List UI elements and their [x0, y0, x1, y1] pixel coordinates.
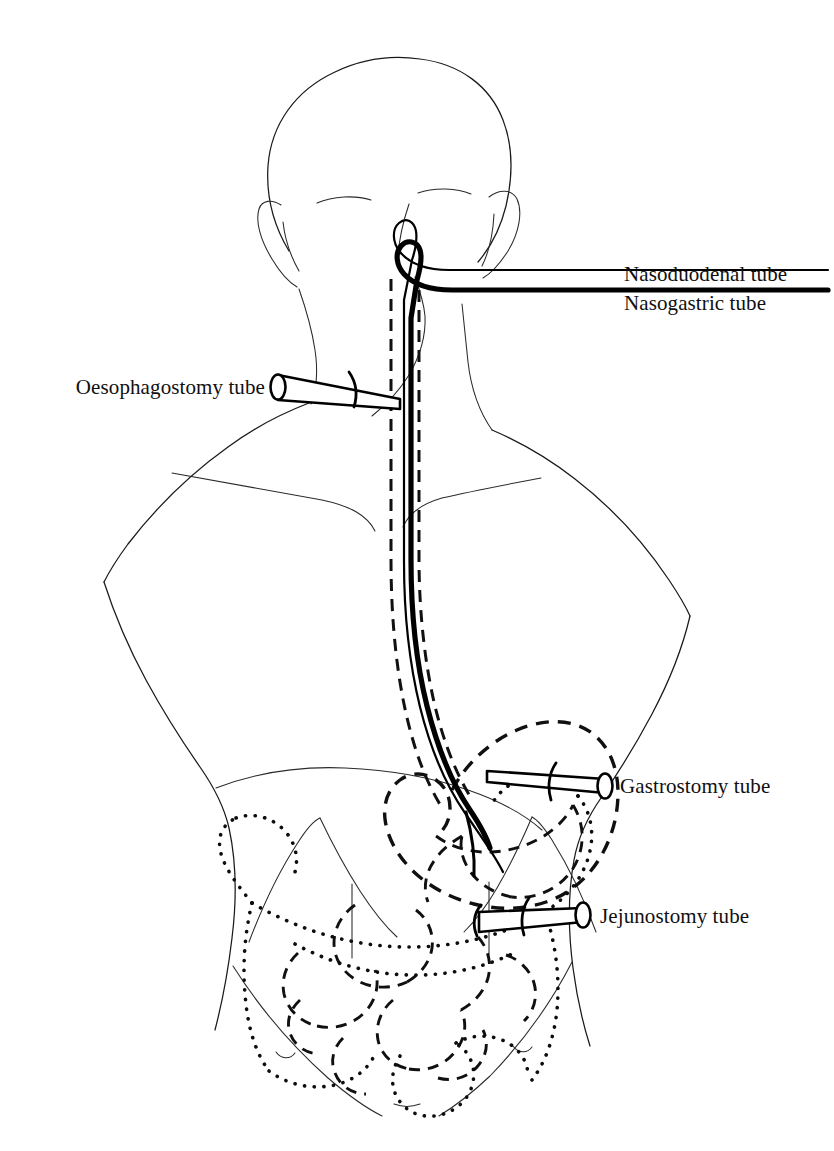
- jejunostomy-tube-open-end[interactable]: [576, 903, 591, 928]
- figure-root: Nasoduodenal tube Nasogastric tube Oesop…: [0, 0, 834, 1151]
- feeding-tube-diagram: Nasoduodenal tube Nasogastric tube Oesop…: [0, 0, 834, 1151]
- canvas-background: [0, 0, 834, 1151]
- oesophagostomy-tube-open-end[interactable]: [271, 375, 286, 400]
- gastrostomy-tube-open-end[interactable]: [598, 774, 613, 799]
- label-nasoduodenal-tube: Nasoduodenal tube: [624, 262, 787, 286]
- label-nasogastric-tube: Nasogastric tube: [624, 291, 766, 315]
- label-gastrostomy-tube: Gastrostomy tube: [620, 774, 770, 798]
- label-oesophagostomy-tube: Oesophagostomy tube: [76, 375, 265, 399]
- label-jejunostomy-tube: Jejunostomy tube: [600, 904, 749, 928]
